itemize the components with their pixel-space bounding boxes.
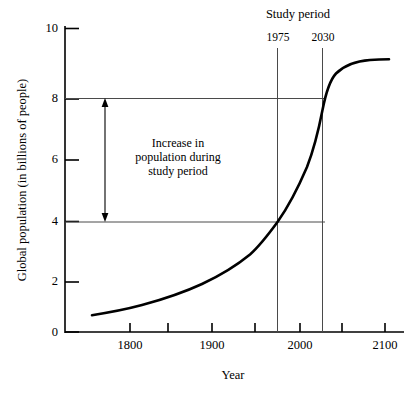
chart-canvas (0, 0, 420, 394)
increase-callout-line-1: Increase in (118, 136, 238, 150)
population-growth-chart: 10 8 6 4 2 0 1800 1900 2000 2100 Year Gl… (0, 0, 420, 394)
y-tick-label-4: 4 (34, 215, 58, 228)
y-tick-label-2: 2 (34, 275, 58, 288)
y-tick-label-10: 10 (34, 22, 58, 35)
x-tick-label-2000: 2000 (276, 339, 324, 352)
study-period-title: Study period (238, 8, 358, 21)
x-tick-label-1800: 1800 (106, 339, 154, 352)
x-tick-label-2100: 2100 (361, 339, 409, 352)
increase-callout-line-3: study period (118, 164, 238, 178)
x-tick-marks (130, 323, 385, 332)
increase-arrow (102, 98, 109, 222)
population-curve (92, 59, 389, 315)
y-tick-label-0: 0 (34, 326, 58, 339)
y-tick-label-8: 8 (34, 92, 58, 105)
x-axis-title: Year (173, 369, 293, 382)
y-axis-title: Global population (in billions of people… (16, 60, 29, 300)
x-tick-label-1900: 1900 (188, 339, 236, 352)
y-tick-marks (65, 29, 79, 333)
study-start-year-label: 1975 (258, 32, 298, 44)
increase-callout: Increase in population during study peri… (118, 136, 238, 178)
increase-callout-line-2: population during (118, 150, 238, 164)
y-tick-label-6: 6 (34, 153, 58, 166)
study-end-year-label: 2030 (303, 32, 343, 44)
